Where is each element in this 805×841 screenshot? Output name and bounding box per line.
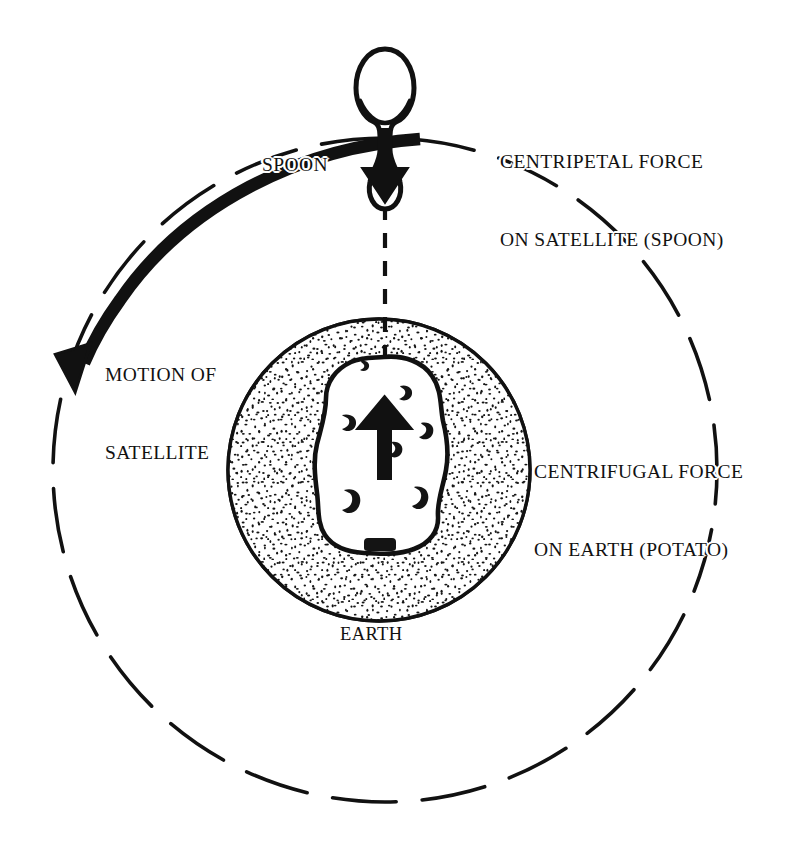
label-earth-text: EARTH: [340, 622, 403, 646]
label-centripetal-line2: ON SATELLITE (SPOON): [500, 227, 724, 253]
label-motion-line2: SATELLITE: [105, 440, 216, 466]
label-motion-line1: MOTION OF: [105, 362, 216, 388]
label-centripetal-force: CENTRIPETAL FORCE ON SATELLITE (SPOON): [500, 98, 724, 304]
label-spoon: SPOON: [262, 101, 328, 230]
label-centrifugal-line1: CENTRIFUGAL FORCE: [534, 459, 743, 485]
label-centrifugal-force: CENTRIFUGAL FORCE ON EARTH (POTATO): [534, 408, 743, 614]
label-earth: EARTH: [337, 573, 406, 695]
potato-outline: [315, 357, 448, 554]
label-centripetal-line1: CENTRIPETAL FORCE: [500, 149, 724, 175]
diagram-canvas: SPOON CENTRIPETAL FORCE ON SATELLITE (SP…: [0, 0, 805, 841]
spoon-outline: [356, 49, 414, 209]
label-spoon-text: SPOON: [262, 152, 328, 178]
label-motion-of-satellite: MOTION OF SATELLITE: [105, 311, 216, 517]
label-centrifugal-line2: ON EARTH (POTATO): [534, 537, 743, 563]
